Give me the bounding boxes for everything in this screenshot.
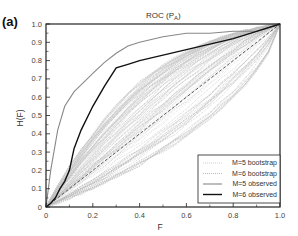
y-tick-label: 0.1: [32, 184, 42, 193]
roc-chart: (a) ROC (PA) 00.20.40.60.81.0 00.10.20.3…: [0, 0, 298, 236]
y-tick-label: 0.4: [32, 129, 42, 138]
x-axis: 00.20.40.60.81.0: [44, 203, 285, 220]
y-tick-label: 0.9: [32, 38, 42, 47]
y-tick-label: 0.6: [32, 93, 42, 102]
x-axis-label: F: [157, 222, 162, 232]
legend-item-label: M=6 bootstrap: [232, 170, 277, 178]
x-tick-label: 0.4: [134, 211, 144, 220]
legend: M=5 bootstrapM=6 bootstrapM=5 observedM=…: [198, 155, 280, 203]
x-tick-label: 1.0: [275, 211, 285, 220]
legend-item-label: M=5 observed: [232, 180, 277, 187]
y-axis-label: H(F): [15, 109, 25, 126]
x-tick-label: 0.8: [228, 211, 238, 220]
x-tick-label: 0: [44, 211, 48, 220]
y-tick-label: 0.8: [32, 56, 42, 65]
y-tick-label: 1.0: [32, 20, 42, 29]
legend-item-label: M=6 observed: [232, 191, 277, 198]
y-axis: 00.10.20.30.40.50.60.70.80.91.0: [32, 20, 50, 212]
panel-label: (a): [2, 14, 18, 29]
legend-item-label: M=5 bootstrap: [232, 159, 277, 167]
chart-title: ROC (PA): [146, 11, 181, 21]
x-tick-label: 0.2: [88, 211, 98, 220]
y-tick-label: 0.7: [32, 74, 42, 83]
y-tick-label: 0.2: [32, 166, 42, 175]
x-tick-label: 0.6: [181, 211, 191, 220]
y-tick-label: 0: [38, 203, 42, 212]
y-tick-label: 0.3: [32, 148, 42, 157]
y-tick-label: 0.5: [32, 111, 42, 120]
